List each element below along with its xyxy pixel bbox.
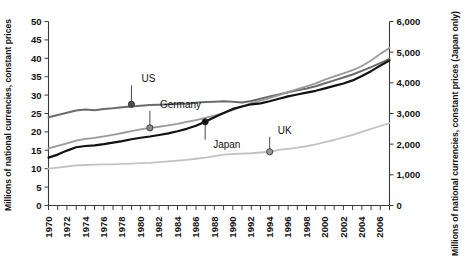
right-axis-tick-label: 4,000 <box>397 77 421 88</box>
x-axis-tick-label: 1986 <box>190 217 201 238</box>
left-axis-tick-label: 45 <box>31 34 42 45</box>
left-axis-tick-label: 50 <box>31 16 42 27</box>
x-axis-tick-label: 1982 <box>153 217 164 238</box>
right-axis-title: Millions of national currencies, constan… <box>450 11 460 256</box>
callout-label: UK <box>278 125 292 136</box>
x-axis-tick-label: 1976 <box>98 217 109 238</box>
right-axis-tick-label: 0 <box>397 200 402 211</box>
left-axis-tick-label: 20 <box>31 126 42 137</box>
callout-marker <box>202 119 208 125</box>
x-axis-tick-label: 2000 <box>319 217 330 238</box>
x-axis-tick-label: 1988 <box>209 217 220 238</box>
x-axis-tick-label: 1998 <box>301 217 312 238</box>
left-axis-title: Millions of national currencies, constan… <box>3 19 13 211</box>
x-axis-tick-label: 1984 <box>172 216 183 238</box>
x-axis-tick-label: 1970 <box>43 217 54 238</box>
callout-label: Japan <box>213 139 240 150</box>
right-axis-tick-label: 3,000 <box>397 108 421 119</box>
x-axis-tick-label: 1972 <box>61 217 72 238</box>
x-axis-tick-label: 1990 <box>227 217 238 238</box>
x-axis-tick-label: 1996 <box>282 217 293 238</box>
x-axis-tick-label: 2004 <box>356 216 367 238</box>
right-axis-tick-label: 2,000 <box>397 139 421 150</box>
right-axis-tick-label: 1,000 <box>397 169 421 180</box>
x-axis-tick-label: 2006 <box>374 217 385 238</box>
x-axis-tick-label: 1992 <box>245 217 256 238</box>
left-axis-tick-label: 25 <box>31 108 42 119</box>
callout-marker <box>147 125 153 131</box>
chart-container: 05101520253035404550 01,0002,0003,0004,0… <box>0 0 465 271</box>
x-axis-tick-label: 2002 <box>338 217 349 238</box>
x-axis-tick-label: 1994 <box>264 216 275 238</box>
left-axis-tick-label: 10 <box>31 163 42 174</box>
x-axis-tick-label: 1974 <box>80 216 91 238</box>
left-axis-tick-label: 5 <box>36 182 42 193</box>
callout-marker <box>128 101 134 107</box>
right-axis-tick-label: 6,000 <box>397 16 421 27</box>
callout-label: US <box>141 73 155 84</box>
left-axis-tick-label: 40 <box>31 53 42 64</box>
left-axis-tick-label: 35 <box>31 71 42 82</box>
callout-marker <box>267 149 273 155</box>
x-axis-tick-label: 1978 <box>116 217 127 238</box>
left-axis-tick-label: 15 <box>31 145 42 156</box>
x-axis-tick-label: 1980 <box>135 217 146 238</box>
right-axis-tick-label: 5,000 <box>397 47 421 58</box>
callout-label: Germany <box>160 99 201 110</box>
left-axis-tick-label: 30 <box>31 90 42 101</box>
line-chart: 05101520253035404550 01,0002,0003,0004,0… <box>0 0 465 271</box>
left-axis-tick-label: 0 <box>36 200 41 211</box>
